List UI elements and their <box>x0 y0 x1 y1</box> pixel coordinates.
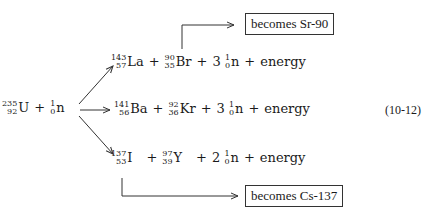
equation-number: (10-12) <box>385 103 421 118</box>
neutron-count: 3 <box>212 54 220 69</box>
element-symbol: n <box>231 150 239 165</box>
element-symbol: La <box>127 54 143 69</box>
atomic-number: 57 <box>111 62 126 70</box>
element-symbol: Kr <box>180 101 196 116</box>
atomic-number: 36 <box>169 109 179 117</box>
plus-sign: + <box>149 54 160 69</box>
energy-label: energy <box>264 101 310 116</box>
arrow-br-to-sr90 <box>182 25 234 49</box>
atomic-number: 35 <box>165 62 175 70</box>
element-symbol: Ba <box>130 101 147 116</box>
neutron: 10n <box>229 101 243 118</box>
atomic-number: 0 <box>229 109 234 117</box>
arrow-to-la <box>79 66 113 104</box>
callout-cs137: becomes Cs-137 <box>245 185 343 207</box>
neutron: 10n <box>50 100 64 117</box>
element-symbol: n <box>56 100 64 115</box>
plus-sign: + <box>153 101 164 116</box>
atomic-number: 39 <box>162 158 172 166</box>
atomic-number: 53 <box>111 158 126 166</box>
krypton-92: 9236Kr <box>169 101 196 118</box>
element-symbol: n <box>235 101 243 116</box>
plus-sign: + <box>244 150 255 165</box>
element-symbol: I <box>127 150 132 165</box>
reactants: 23592U+10n <box>2 100 65 117</box>
bromine-90: 9035Br <box>165 54 192 71</box>
neutron: 10n <box>225 54 239 71</box>
reaction-row-i-y: 13753I+9739Y+2 10n+energy <box>111 150 305 167</box>
iodine-137: 13753I <box>111 150 132 167</box>
atomic-number: 0 <box>224 158 229 166</box>
arrow-i-to-cs137 <box>122 178 238 196</box>
atomic-number: 0 <box>50 108 55 116</box>
atomic-number: 92 <box>2 108 17 116</box>
energy-label: energy <box>260 54 306 69</box>
atomic-number: 0 <box>225 62 230 70</box>
element-symbol: Br <box>176 54 192 69</box>
energy-label: energy <box>260 150 306 165</box>
callout-sr90: becomes Sr-90 <box>245 13 334 35</box>
plus-sign: + <box>244 54 255 69</box>
reaction-row-ba-kr: 14156Ba+9236Kr+3 10n+energy <box>114 101 310 118</box>
element-symbol: n <box>231 54 239 69</box>
lanthanum-143: 14357La <box>111 54 144 71</box>
plus-sign: + <box>248 101 259 116</box>
plus-sign: + <box>201 101 212 116</box>
yttrium-97: 9739Y <box>162 150 182 167</box>
element-symbol: Y <box>174 150 183 165</box>
plus-sign: + <box>197 54 208 69</box>
plus-sign: + <box>196 150 207 165</box>
barium-141: 14156Ba <box>114 101 148 118</box>
reaction-row-la-br: 14357La+9035Br+3 10n+energy <box>111 54 306 71</box>
plus-sign: + <box>146 150 157 165</box>
atomic-number: 56 <box>114 109 129 117</box>
neutron: 10n <box>224 150 238 167</box>
element-symbol: U <box>18 100 29 115</box>
arrow-to-i <box>79 116 113 154</box>
plus-sign: + <box>34 100 45 115</box>
uranium-235: 23592U <box>2 100 29 117</box>
neutron-count: 2 <box>212 150 220 165</box>
neutron-count: 3 <box>217 101 225 116</box>
